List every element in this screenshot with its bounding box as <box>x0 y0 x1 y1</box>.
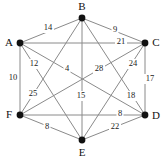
edge-weight-label: 15 <box>77 90 86 100</box>
edge-weight-label: 25 <box>29 88 38 98</box>
edge-weight-label: 24 <box>129 58 138 68</box>
graph-canvas: 14921101788221512254282418 ABCDEF <box>0 0 165 163</box>
edge-weight-label: 8 <box>45 121 49 131</box>
vertex-label-f: F <box>6 108 12 120</box>
graph-edge <box>20 115 82 140</box>
edge-weight-label: 10 <box>9 72 18 82</box>
edge-weight-label: 22 <box>111 121 120 131</box>
edge-weight-label: 9 <box>113 24 117 34</box>
vertex-label-a: A <box>5 36 13 48</box>
vertex-label-e: E <box>79 146 86 158</box>
graph-vertex-d <box>142 112 149 119</box>
graph-vertex-c <box>142 40 149 47</box>
graph-figure: 14921101788221512254282418 ABCDEF <box>0 0 165 163</box>
edge-weight-label: 21 <box>117 36 126 46</box>
vertex-label-d: D <box>152 109 160 121</box>
edge-weight-label: 17 <box>146 73 155 83</box>
vertex-label-b: B <box>78 0 85 12</box>
edge-weight-label: 18 <box>127 90 136 100</box>
graph-vertex-f <box>17 112 24 119</box>
edge-weight-label: 8 <box>118 108 122 118</box>
edge-weight-label: 14 <box>44 22 53 32</box>
edge-weight-label: 28 <box>95 63 104 73</box>
edge-line-group <box>20 18 145 140</box>
edge-weight-label: 12 <box>30 58 39 68</box>
graph-vertex-e <box>79 137 86 144</box>
graph-vertex-b <box>79 15 86 22</box>
vertex-label-c: C <box>152 36 159 48</box>
graph-vertex-a <box>17 40 24 47</box>
